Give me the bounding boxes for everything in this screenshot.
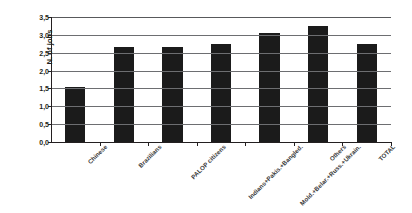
bar [211, 44, 231, 142]
y-axis-tick-label: 1,0 [27, 103, 49, 110]
y-axis-tick-mark [48, 35, 52, 36]
y-axis-tick-mark [48, 88, 52, 89]
y-axis-tick-label: 2,0 [27, 67, 49, 74]
x-axis-category-label: PALOP citizens [190, 143, 227, 180]
gridline [51, 88, 391, 89]
x-axis-category-label: Indians+Pakis.+Bangled. [247, 143, 304, 200]
y-axis-tick-mark [48, 17, 52, 18]
x-axis-category-labels: ChineseBraziliansPALOP citizensIndians+P… [51, 143, 391, 213]
bar [357, 44, 377, 142]
gridline [51, 124, 391, 125]
plot-area [51, 17, 391, 142]
y-axis-tick-label: 0,0 [27, 139, 49, 146]
y-axis-tick-mark [48, 53, 52, 54]
x-axis-category-label: Chinese [86, 143, 108, 165]
y-axis-tick-label: 3,0 [27, 31, 49, 38]
y-axis-tick-mark [48, 71, 52, 72]
x-axis-category-label: Mold.+Belar.+Russ.+Ukrain. [298, 143, 362, 207]
bar [114, 47, 134, 142]
gridline [51, 71, 391, 72]
x-axis-category-label: Brazilians [137, 143, 163, 169]
gridline [51, 35, 391, 36]
gridline [51, 106, 391, 107]
y-axis-tick-labels: 0,00,51,01,52,02,53,03,5 [27, 12, 49, 142]
bar [162, 47, 182, 142]
y-axis-tick-mark [48, 106, 52, 107]
bar-chart: N. of jobs 0,00,51,01,52,02,53,03,5 Chin… [0, 0, 412, 213]
bar [65, 87, 85, 142]
y-axis-tick-label: 3,5 [27, 14, 49, 21]
y-axis-tick-label: 1,5 [27, 85, 49, 92]
y-axis-tick-label: 0,5 [27, 121, 49, 128]
y-axis-tick-label: 2,5 [27, 49, 49, 56]
gridline [51, 53, 391, 54]
y-axis-tick-mark [48, 124, 52, 125]
x-axis-category-label: TOTAL [377, 143, 396, 162]
